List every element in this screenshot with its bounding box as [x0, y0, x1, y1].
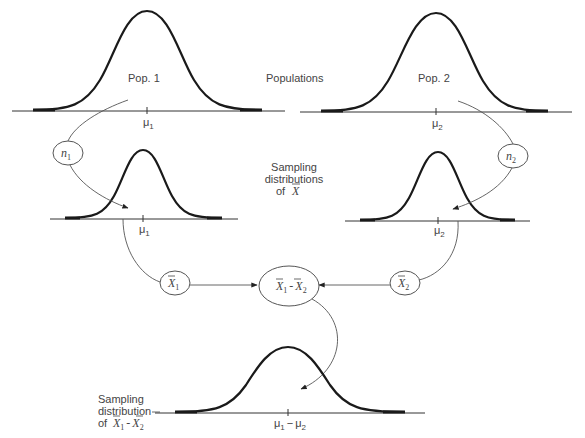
- connector-diff-to-bottom: [301, 299, 338, 389]
- population-2-label: Pop. 2: [418, 72, 450, 84]
- connector-pop2-to-n2: [458, 101, 513, 144]
- population-2-mean-label: μ2: [432, 117, 443, 132]
- sampling-distribution-2-mean-label: μ2: [434, 224, 445, 239]
- svg-text:of: of: [98, 417, 108, 429]
- sampling-distribution-1-curve: [65, 150, 222, 218]
- sample-size-n1-node: n1: [53, 141, 83, 165]
- svg-text:Sampling: Sampling: [271, 161, 317, 173]
- populations-heading: Populations: [266, 72, 324, 84]
- population-2-curve: [321, 13, 548, 111]
- difference-distribution-curve: [175, 347, 405, 412]
- svg-text:distribution: distribution: [98, 405, 151, 417]
- svg-text:of: of: [276, 185, 286, 197]
- difference-distribution-heading: Sampling distribution of X1-X2: [98, 393, 160, 432]
- difference-distribution-mean-label: μ1−μ2: [274, 417, 307, 432]
- population-2-distribution: Pop. 2 μ2: [300, 13, 572, 132]
- sample-size-n2-node: n2: [498, 144, 528, 168]
- svg-text:X: X: [291, 184, 300, 198]
- sampling-distribution-2: μ2: [345, 152, 530, 239]
- sample-mean-xbar2-node: X2: [390, 271, 420, 295]
- population-1-curve: [33, 11, 262, 110]
- sampling-distribution-diagram: Pop. 1 μ1 Pop. 2 μ2 Populations μ1 μ2 Sa…: [0, 0, 585, 438]
- svg-text:X1-X2: X1-X2: [275, 279, 307, 295]
- sampling-distribution-1: μ1: [50, 150, 238, 238]
- difference-of-means-node: X1-X2: [259, 266, 319, 306]
- sampling-distributions-heading: Sampling distributions of X: [265, 161, 324, 198]
- difference-sampling-distribution: μ1−μ2: [155, 347, 425, 432]
- sampling-distribution-2-curve: [360, 152, 515, 220]
- population-1-label: Pop. 1: [128, 72, 160, 84]
- connector-pop1-to-n1: [68, 100, 128, 141]
- population-1-mean-label: μ1: [143, 116, 154, 131]
- svg-text:Sampling: Sampling: [98, 393, 144, 405]
- svg-text:X1-X2: X1-X2: [112, 416, 144, 432]
- sample-mean-xbar1-node: X1: [160, 271, 190, 295]
- population-1-distribution: Pop. 1 μ1: [12, 11, 285, 131]
- sampling-distribution-1-mean-label: μ1: [139, 223, 150, 238]
